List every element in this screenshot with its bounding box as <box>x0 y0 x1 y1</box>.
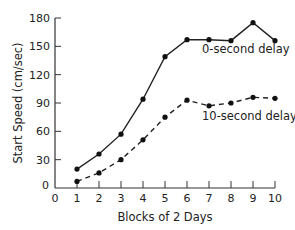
x-tick-label: 3 <box>118 192 125 205</box>
data-point <box>272 96 277 101</box>
data-point <box>162 115 167 120</box>
y-tick-label: 150 <box>29 40 50 53</box>
y-axis-label: Start Speed (cm/sec) <box>11 42 25 163</box>
data-point <box>250 95 255 100</box>
data-point <box>184 37 189 42</box>
data-point <box>96 151 101 156</box>
y-tick-label: 120 <box>29 69 50 82</box>
data-point <box>74 167 79 172</box>
x-axis-label: Blocks of 2 Days <box>117 210 212 224</box>
data-point <box>74 179 79 184</box>
x-tick-label: 4 <box>140 192 147 205</box>
x-tick-label: 2 <box>96 192 103 205</box>
data-point <box>96 170 101 175</box>
x-tick-label: 10 <box>268 192 282 205</box>
annotation-0-second: 0-second delay <box>202 42 290 56</box>
x-tick-label: 0 <box>52 192 59 205</box>
x-tick-label: 5 <box>162 192 169 205</box>
data-point <box>118 132 123 137</box>
data-point <box>228 100 233 105</box>
data-point <box>118 157 123 162</box>
annotation-10-second: 10-second delay <box>202 109 295 123</box>
data-point <box>206 103 211 108</box>
data-point <box>140 97 145 102</box>
y-tick-label: 30 <box>36 154 50 167</box>
y-tick-label: 180 <box>29 12 50 25</box>
data-point <box>184 98 189 103</box>
x-tick-label: 1 <box>74 192 81 205</box>
x-tick-label: 6 <box>184 192 191 205</box>
y-tick-label: 0 <box>42 179 49 192</box>
data-point <box>250 20 255 25</box>
data-point <box>162 54 167 59</box>
data-point <box>140 137 145 142</box>
x-tick-label: 8 <box>228 192 235 205</box>
line-chart: 0306090120150180012345678910 0-second de… <box>0 0 295 230</box>
x-tick-label: 9 <box>250 192 257 205</box>
x-tick-label: 7 <box>206 192 213 205</box>
y-tick-label: 90 <box>36 97 50 110</box>
y-tick-label: 60 <box>36 125 50 138</box>
